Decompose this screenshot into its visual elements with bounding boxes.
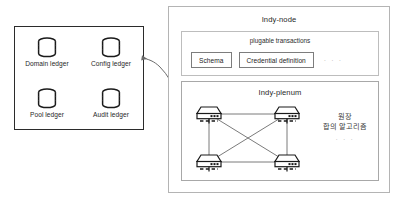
transaction-chip-label: Schema bbox=[199, 57, 224, 64]
transaction-chip-schema[interactable]: Schema bbox=[191, 52, 232, 68]
ledger-item-label: Domain ledger bbox=[25, 61, 69, 68]
ledger-item-label: Audit ledger bbox=[93, 112, 129, 119]
plenum-node-bottom-right[interactable] bbox=[272, 152, 302, 172]
database-cylinder-icon bbox=[35, 37, 59, 59]
consensus-caption-line-1: 원장 bbox=[314, 112, 376, 122]
database-cylinder-icon bbox=[35, 88, 59, 110]
indy-node-title: Indy-node bbox=[169, 16, 389, 24]
consensus-caption-line-2: 합의 알고리즘 bbox=[314, 122, 376, 132]
consensus-caption: 원장 합의 알고리즘 · · · bbox=[314, 112, 376, 143]
indy-node-panel: Indy-node plugable transactions Schema C… bbox=[168, 6, 390, 193]
plugable-transactions-title: plugable transactions bbox=[182, 38, 378, 44]
consensus-more-ellipsis: · · · bbox=[314, 133, 376, 143]
transaction-chip-credential-definition[interactable]: Credential definition bbox=[239, 52, 314, 68]
transactions-more-ellipsis: · · · bbox=[321, 57, 343, 64]
diagram-canvas: Domain ledger Config ledger Po bbox=[0, 0, 399, 199]
transaction-chip-row: Schema Credential definition · · · bbox=[191, 52, 343, 68]
plenum-node-top-left[interactable] bbox=[194, 104, 224, 124]
ledger-item-label: Config ledger bbox=[91, 61, 131, 68]
plugable-transactions-box: plugable transactions Schema Credential … bbox=[181, 31, 379, 76]
indy-plenum-panel: Indy-plenum bbox=[181, 81, 379, 181]
database-cylinder-icon bbox=[99, 37, 123, 59]
server-device-icon bbox=[197, 155, 221, 172]
server-device-icon bbox=[275, 107, 299, 124]
server-device-icon bbox=[275, 155, 299, 172]
ledger-group-box: Domain ledger Config ledger Po bbox=[14, 26, 144, 130]
server-device-icon bbox=[197, 107, 221, 124]
ledger-item-label: Pool ledger bbox=[30, 112, 64, 119]
database-cylinder-icon bbox=[99, 88, 123, 110]
ledger-item-pool[interactable]: Pool ledger bbox=[15, 78, 79, 129]
ledger-item-domain[interactable]: Domain ledger bbox=[15, 27, 79, 78]
indy-plenum-title: Indy-plenum bbox=[182, 89, 378, 97]
transaction-chip-label: Credential definition bbox=[247, 57, 306, 64]
plenum-node-top-right[interactable] bbox=[272, 104, 302, 124]
plenum-node-bottom-left[interactable] bbox=[194, 152, 224, 172]
node-mesh bbox=[190, 102, 310, 174]
